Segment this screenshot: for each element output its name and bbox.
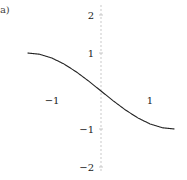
tick-labels: 21−1−2−11 [45, 10, 154, 173]
line-chart: 21−1−2−11 [0, 0, 187, 180]
y-axis [99, 5, 103, 172]
y-tick-label: −1 [79, 124, 94, 135]
y-tick-label: −2 [79, 162, 94, 173]
x-tick-label: −1 [45, 95, 60, 106]
y-tick-label: 1 [88, 48, 94, 59]
y-tick-label: 2 [88, 10, 94, 21]
x-tick-label: 1 [147, 95, 153, 106]
